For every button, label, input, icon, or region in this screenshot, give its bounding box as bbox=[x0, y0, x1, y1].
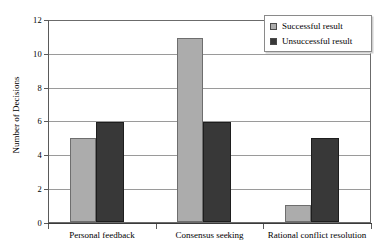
x-axis-line bbox=[48, 223, 372, 224]
bar-chart: Successful result Unsuccessful result 12… bbox=[0, 0, 387, 252]
unsuccessful-swatch-icon bbox=[270, 38, 277, 45]
gridline-10 bbox=[49, 54, 370, 55]
y-tick-label-10: 10 bbox=[0, 50, 42, 59]
bar-unsuccessful-rational-conflict-resolution bbox=[311, 138, 339, 222]
x-tick-mark-3 bbox=[371, 224, 372, 229]
y-tick-mark-6 bbox=[44, 121, 49, 122]
y-tick-mark-4 bbox=[44, 155, 49, 156]
x-tick-label-consensus-seeking: Consensus seeking bbox=[156, 230, 263, 241]
bar-successful-rational-conflict-resolution bbox=[285, 205, 311, 222]
y-tick-label-12: 12 bbox=[0, 16, 42, 25]
legend-item-successful: Successful result bbox=[270, 19, 367, 34]
bar-unsuccessful-personal-feedback bbox=[96, 122, 124, 223]
y-tick-label-8: 8 bbox=[0, 84, 42, 93]
y-tick-label-6: 6 bbox=[0, 117, 42, 126]
y-tick-label-4: 4 bbox=[0, 151, 42, 160]
y-tick-label-0: 0 bbox=[0, 219, 42, 228]
y-tick-mark-2 bbox=[44, 189, 49, 190]
x-tick-label-rational-conflict-resolution: Rational conflict resolution bbox=[261, 230, 373, 241]
legend-label-unsuccessful: Unsuccessful result bbox=[282, 37, 352, 46]
x-tick-label-personal-feedback: Personal feedback bbox=[48, 230, 156, 241]
legend-label-successful: Successful result bbox=[282, 22, 343, 31]
y-axis-line bbox=[48, 20, 49, 224]
successful-swatch-icon bbox=[270, 23, 277, 30]
x-tick-mark-1 bbox=[156, 224, 157, 229]
y-axis-title: Number of Decisions bbox=[11, 55, 21, 175]
legend: Successful result Unsuccessful result bbox=[264, 15, 372, 52]
x-tick-mark-2 bbox=[263, 224, 264, 229]
y-tick-mark-10 bbox=[44, 54, 49, 55]
gridline-8 bbox=[49, 88, 370, 89]
plot-area: Successful result Unsuccessful result bbox=[48, 20, 371, 223]
x-tick-mark-0 bbox=[48, 224, 49, 229]
bar-successful-consensus-seeking bbox=[177, 38, 203, 222]
y-tick-mark-8 bbox=[44, 88, 49, 89]
y-tick-label-2: 2 bbox=[0, 185, 42, 194]
legend-item-unsuccessful: Unsuccessful result bbox=[270, 34, 367, 49]
y-tick-mark-12 bbox=[44, 20, 49, 21]
bar-unsuccessful-consensus-seeking bbox=[203, 122, 231, 223]
bar-successful-personal-feedback bbox=[70, 138, 96, 222]
